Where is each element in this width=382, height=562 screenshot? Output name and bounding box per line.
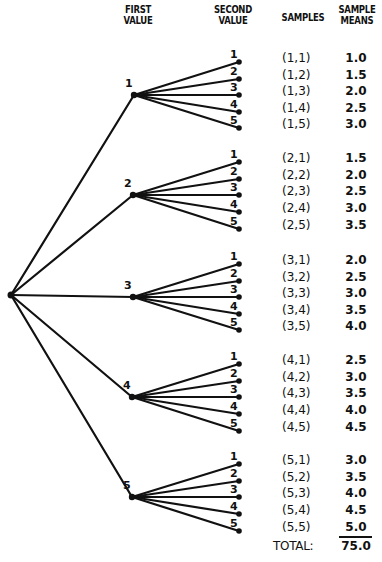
second-value-label: 5	[230, 216, 238, 228]
first-value-node	[131, 92, 137, 98]
edge-root-to-2	[11, 195, 133, 295]
first-value-label: 3	[124, 280, 132, 292]
mean-cell: 3.0	[338, 202, 374, 215]
edge-4-to-4	[132, 397, 239, 414]
header-sample-means: SAMPLE MEANS	[337, 4, 376, 26]
mean-cell: 4.5	[338, 504, 374, 517]
second-value-label: 4	[230, 401, 238, 413]
edge-5-to-2	[132, 481, 239, 497]
second-value-label: 5	[230, 418, 238, 430]
second-value-label: 5	[230, 518, 238, 530]
second-value-label: 2	[230, 66, 238, 78]
sample-cell: (1,5)	[282, 118, 332, 131]
second-value-label: 3	[230, 82, 238, 94]
second-value-label: 1	[230, 451, 238, 463]
sample-cell: (1,1)	[282, 52, 332, 65]
mean-cell: 1.0	[338, 52, 374, 65]
second-value-label: 3	[230, 284, 238, 296]
edge-root-to-5	[11, 295, 132, 497]
sample-cell: (3,3)	[282, 287, 332, 300]
edge-1-to-1	[134, 62, 239, 95]
second-value-label: 2	[230, 468, 238, 480]
edge-1-to-2	[134, 79, 239, 95]
second-value-label: 2	[230, 268, 238, 280]
mean-cell: 4.0	[338, 404, 374, 417]
sample-cell: (5,3)	[282, 487, 332, 500]
total-label: TOTAL:	[273, 540, 313, 553]
mean-cell: 5.0	[338, 521, 374, 534]
sample-cell: (3,1)	[282, 254, 332, 267]
mean-cell: 3.5	[338, 219, 374, 232]
header-first-value-line1: FIRST	[121, 4, 155, 15]
edge-5-to-5	[132, 497, 239, 531]
edge-2-to-2	[133, 179, 239, 195]
first-value-label: 2	[124, 178, 132, 190]
first-value-label: 4	[123, 380, 131, 392]
second-value-label: 4	[230, 501, 238, 513]
edge-root-to-1	[11, 95, 134, 295]
mean-cell: 4.0	[338, 487, 374, 500]
edge-1-to-4	[134, 95, 239, 112]
edge-3-to-4	[133, 297, 239, 314]
header-samples-line1: SAMPLES	[278, 12, 327, 23]
mean-cell: 2.5	[338, 185, 374, 198]
sample-cell: (4,5)	[282, 421, 332, 434]
sample-cell: (2,2)	[282, 169, 332, 182]
sample-cell: (4,3)	[282, 387, 332, 400]
sample-cell: (5,2)	[282, 471, 332, 484]
edge-2-to-1	[133, 162, 239, 195]
sample-cell: (1,4)	[282, 102, 332, 115]
header-second-value-line2: VALUE	[212, 15, 255, 26]
mean-cell: 3.5	[338, 471, 374, 484]
second-value-label: 4	[230, 301, 238, 313]
second-value-label: 4	[230, 99, 238, 111]
sample-cell: (3,5)	[282, 320, 332, 333]
second-value-label: 1	[230, 351, 238, 363]
mean-cell: 3.0	[338, 118, 374, 131]
header-sample-means-line1: SAMPLE	[337, 4, 376, 15]
header-second-value-line1: SECOND	[212, 4, 255, 15]
first-value-node	[130, 294, 136, 300]
mean-cell: 3.0	[338, 287, 374, 300]
mean-cell: 2.5	[338, 354, 374, 367]
sample-cell: (5,4)	[282, 504, 332, 517]
mean-cell: 4.5	[338, 421, 374, 434]
header-second-value: SECOND VALUE	[212, 4, 255, 26]
sample-cell: (4,2)	[282, 371, 332, 384]
edge-4-to-2	[132, 381, 239, 397]
sample-cell: (2,5)	[282, 219, 332, 232]
mean-cell: 3.0	[338, 371, 374, 384]
total-rule	[339, 536, 372, 538]
first-value-node	[129, 394, 135, 400]
second-value-label: 3	[230, 484, 238, 496]
second-value-label: 2	[230, 368, 238, 380]
mean-cell: 2.5	[338, 271, 374, 284]
edge-5-to-4	[132, 497, 239, 514]
header-first-value: FIRST VALUE	[121, 4, 155, 26]
header-sample-means-line2: MEANS	[337, 15, 376, 26]
mean-cell: 3.0	[338, 454, 374, 467]
first-value-label: 5	[123, 480, 131, 492]
edge-root-to-4	[11, 295, 132, 397]
second-value-label: 3	[230, 182, 238, 194]
edge-5-to-1	[132, 464, 239, 497]
mean-cell: 3.5	[338, 304, 374, 317]
edge-3-to-2	[133, 281, 239, 297]
second-value-label: 1	[230, 49, 238, 61]
header-samples: SAMPLES	[278, 12, 327, 23]
root-node	[8, 292, 15, 299]
sample-cell: (3,2)	[282, 271, 332, 284]
second-value-label: 5	[230, 115, 238, 127]
mean-cell: 4.0	[338, 320, 374, 333]
edge-2-to-5	[133, 195, 239, 229]
second-value-label: 5	[230, 317, 238, 329]
first-value-node	[130, 192, 136, 198]
second-value-label: 4	[230, 199, 238, 211]
sample-cell: (2,3)	[282, 185, 332, 198]
edge-4-to-1	[132, 364, 239, 397]
second-value-label: 3	[230, 384, 238, 396]
mean-cell: 2.0	[338, 85, 374, 98]
mean-cell: 3.5	[338, 387, 374, 400]
sample-cell: (2,1)	[282, 152, 332, 165]
first-value-label: 1	[125, 78, 133, 90]
